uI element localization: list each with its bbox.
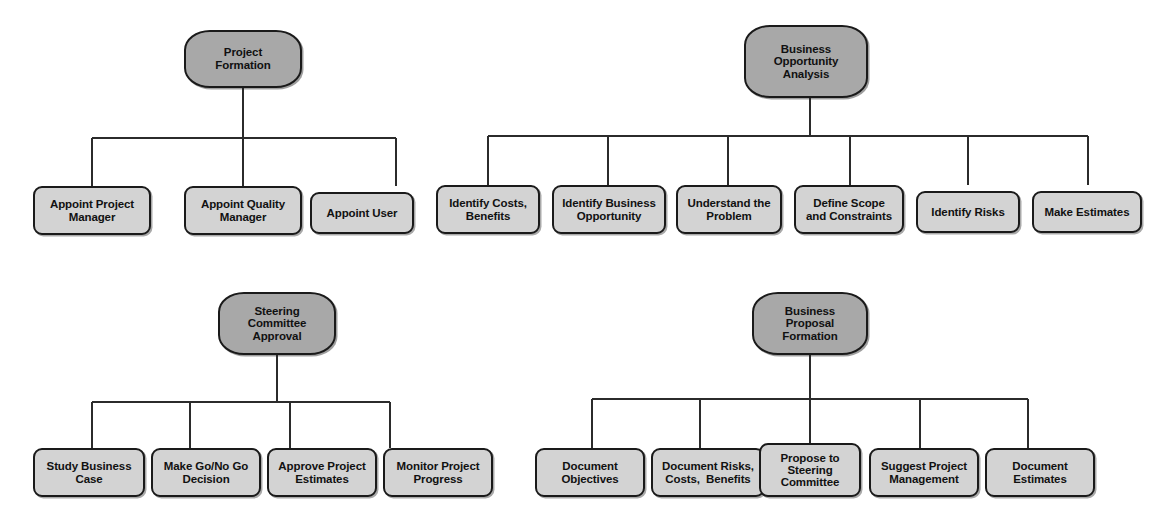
node-propose-to-steering-committee[interactable]: Propose toSteeringCommittee [759,443,861,497]
node-label: Make Estimates [1034,206,1140,219]
node-label: Appoint QualityManager [186,198,300,224]
node-label: Define Scopeand Constraints [796,197,902,223]
node-appoint-project-manager[interactable]: Appoint ProjectManager [33,186,151,235]
diagram-canvas: ProjectFormation Appoint ProjectManager … [0,0,1172,523]
node-understand-the-problem[interactable]: Understand theProblem [676,185,782,234]
node-identify-business-opportunity[interactable]: Identify BusinessOpportunity [552,185,666,234]
node-label: ProjectFormation [186,46,300,71]
node-project-formation[interactable]: ProjectFormation [184,30,302,88]
node-study-business-case[interactable]: Study BusinessCase [33,448,145,497]
node-label: BusinessProposalFormation [754,305,866,343]
node-label: Study BusinessCase [35,460,143,486]
node-label: Appoint ProjectManager [35,198,149,224]
node-label: BusinessOpportunityAnalysis [746,43,866,81]
node-label: SteeringCommitteeApproval [220,305,334,343]
node-define-scope-and-constraints[interactable]: Define Scopeand Constraints [794,185,904,234]
node-label: Document Risks,Costs, Benefits [653,460,763,486]
node-document-objectives[interactable]: DocumentObjectives [535,448,645,497]
node-business-opportunity-analysis[interactable]: BusinessOpportunityAnalysis [744,25,868,98]
node-identify-risks[interactable]: Identify Risks [916,191,1020,233]
node-appoint-quality-manager[interactable]: Appoint QualityManager [184,186,302,235]
node-make-go-no-go-decision[interactable]: Make Go/No GoDecision [151,448,261,497]
node-monitor-project-progress[interactable]: Monitor ProjectProgress [383,448,493,497]
node-document-estimates[interactable]: DocumentEstimates [985,448,1095,497]
node-steering-committee-approval[interactable]: SteeringCommitteeApproval [218,292,336,355]
node-label: Make Go/No GoDecision [153,460,259,486]
node-label: DocumentEstimates [987,460,1093,486]
node-label: Appoint User [312,207,412,220]
node-make-estimates[interactable]: Make Estimates [1032,191,1142,233]
node-label: DocumentObjectives [537,460,643,486]
node-label: Identify Costs,Benefits [438,197,538,223]
node-label: Suggest ProjectManagement [871,460,977,486]
node-approve-project-estimates[interactable]: Approve ProjectEstimates [267,448,377,497]
node-label: Identify Risks [918,206,1018,219]
node-document-risks-costs-benefits[interactable]: Document Risks,Costs, Benefits [651,448,765,497]
node-label: Understand theProblem [678,197,780,223]
node-business-proposal-formation[interactable]: BusinessProposalFormation [752,292,868,355]
node-label: Propose toSteeringCommittee [761,452,859,489]
node-label: Approve ProjectEstimates [269,460,375,486]
node-appoint-user[interactable]: Appoint User [310,192,414,234]
node-label: Monitor ProjectProgress [385,460,491,486]
node-label: Identify BusinessOpportunity [554,197,664,223]
node-identify-costs-benefits[interactable]: Identify Costs,Benefits [436,185,540,234]
connector-lines [0,0,1172,523]
node-suggest-project-management[interactable]: Suggest ProjectManagement [869,448,979,497]
